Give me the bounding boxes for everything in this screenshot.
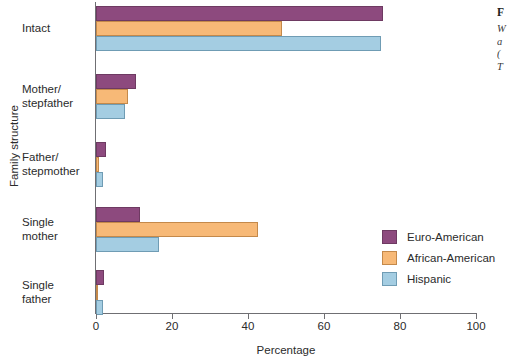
caption-line: a [497, 36, 514, 49]
category-label: Singlemother [22, 216, 90, 243]
legend-swatch-icon [382, 272, 397, 286]
category-label-line: Single [22, 216, 90, 230]
bar-group [96, 142, 476, 187]
legend-label: Euro-American [407, 231, 484, 243]
legend-label: African-American [407, 252, 495, 264]
bar [96, 36, 381, 51]
figure-caption: F W a ( T [497, 6, 514, 73]
bar [96, 237, 159, 252]
bar [96, 157, 99, 172]
category-label-line: Intact [22, 22, 90, 36]
category-label-line: stepmother [22, 165, 90, 179]
bar [96, 74, 136, 89]
caption-line: T [497, 61, 514, 74]
caption-line: W [497, 23, 514, 36]
x-tick-label: 60 [318, 320, 331, 332]
y-axis-title: Family structure [8, 86, 20, 206]
bar [96, 222, 258, 237]
x-tick-mark [324, 314, 325, 319]
legend-item: Hispanic [382, 270, 495, 288]
category-label-line: father [22, 293, 90, 307]
legend-item: Euro-American [382, 228, 495, 246]
category-label-line: stepfather [22, 97, 90, 111]
category-label: Father/stepmother [22, 151, 90, 178]
legend-swatch-icon [382, 230, 397, 244]
bar [96, 104, 125, 119]
bar [96, 89, 128, 104]
legend-swatch-icon [382, 251, 397, 265]
category-label-line: Father/ [22, 151, 90, 165]
legend: Euro-AmericanAfrican-AmericanHispanic [382, 228, 495, 291]
category-label-line: mother [22, 230, 90, 244]
x-tick-mark [248, 314, 249, 319]
bar-group [96, 6, 476, 51]
category-label: Mother/stepfather [22, 83, 90, 110]
x-tick-mark [172, 314, 173, 319]
category-label: Singlefather [22, 279, 90, 306]
bar [96, 207, 140, 222]
bar-group [96, 74, 476, 119]
x-tick-label: 100 [466, 320, 485, 332]
x-tick-label: 80 [394, 320, 407, 332]
caption-title: F [497, 6, 514, 18]
bar [96, 285, 98, 300]
caption-line: ( [497, 48, 514, 61]
bar [96, 300, 103, 315]
category-label: Intact [22, 22, 90, 36]
figure-root: Family structure IntactMother/stepfather… [0, 0, 514, 361]
x-tick-mark [400, 314, 401, 319]
bar [96, 6, 383, 21]
bar [96, 21, 282, 36]
legend-item: African-American [382, 249, 495, 267]
x-tick-label: 20 [166, 320, 179, 332]
category-label-line: Single [22, 279, 90, 293]
bar [96, 142, 106, 157]
legend-label: Hispanic [407, 273, 451, 285]
x-tick-mark [96, 314, 97, 319]
x-tick-label: 0 [93, 320, 99, 332]
category-label-line: Mother/ [22, 83, 90, 97]
x-axis-title: Percentage [96, 344, 476, 356]
x-tick-label: 40 [242, 320, 255, 332]
x-tick-mark [476, 314, 477, 319]
bar [96, 270, 104, 285]
bar [96, 172, 103, 187]
